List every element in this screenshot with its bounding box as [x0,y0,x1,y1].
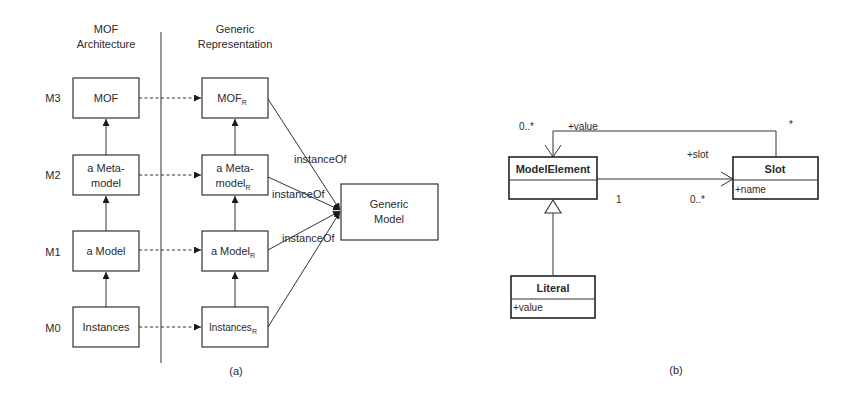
metamodel-box-label2: model [91,177,121,189]
metamodel-r-label1: a Meta- [216,162,254,174]
level-m3: M3 [45,92,60,104]
level-m1: M1 [45,246,60,258]
metamodel-box-label1: a Meta- [87,162,125,174]
mof-box-label: MOF [94,92,119,104]
value-multiplicity-target: 0..* [519,121,534,132]
panel-b: ModelElement Slot +name Literal +value 0… [509,119,818,376]
level-m0: M0 [45,322,60,334]
caption-b: (b) [669,364,682,376]
slot-attribute-name: +name [735,184,766,195]
value-multiplicity-source: * [789,119,793,130]
generic-model-label1: Generic [370,198,409,210]
instanceof-edge-m1 [268,211,340,250]
mof-header-line1: MOF [94,23,119,35]
literal-name: Literal [536,282,569,294]
model-r-label: a ModelR [211,245,255,259]
model-box-label: a Model [86,245,125,257]
caption-a: (a) [229,365,242,377]
metamodel-box [73,155,139,195]
model-element-name: ModelElement [516,163,591,175]
instanceof-label-2: instanceOf [272,188,326,200]
slot-name: Slot [765,163,786,175]
generalization-triangle-icon [545,200,561,213]
level-m2: M2 [45,169,60,181]
generic-header-line2: Representation [198,38,273,50]
metamodel-r-box [202,155,268,195]
instanceof-edge-m0 [268,212,340,327]
generic-model-label2: Model [374,213,404,225]
metamodel-r-label2: modelR [215,177,250,191]
value-role: +value [568,121,598,132]
value-association-line [553,131,776,157]
generic-header-line1: Generic [216,23,255,35]
instanceof-label-1: instanceOf [294,153,348,165]
instances-box-label: Instances [82,321,130,333]
slot-role: +slot [687,149,709,160]
instanceof-label-3: instanceOf [282,232,336,244]
literal-attribute-value: +value [513,302,543,313]
slot-multiplicity-target: 0..* [690,194,705,205]
generic-model-box [341,184,438,240]
panel-a: MOF Architecture Generic Representation … [45,23,438,377]
slot-multiplicity-source: 1 [616,194,622,205]
figure-canvas: MOF Architecture Generic Representation … [0,0,859,400]
mof-header-line2: Architecture [77,38,136,50]
